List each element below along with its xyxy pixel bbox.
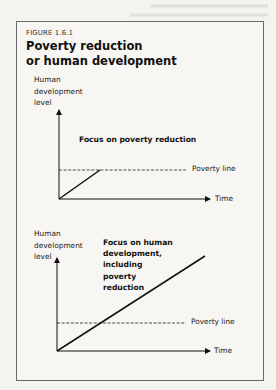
chart2-plot bbox=[0, 0, 276, 390]
chart2-annotation: Focus on human development, including po… bbox=[103, 237, 173, 293]
chart2-poverty-line-label: Poverty line bbox=[191, 317, 235, 326]
chart2-annotation-line-1: Focus on human bbox=[103, 237, 173, 248]
chart2-annotation-line-4: poverty bbox=[103, 271, 173, 282]
chart2-x-axis-label: Time bbox=[214, 346, 232, 355]
chart2-annotation-line-2: development, bbox=[103, 248, 173, 259]
chart2-annotation-line-3: including bbox=[103, 259, 173, 270]
chart2-annotation-line-5: reduction bbox=[103, 282, 173, 293]
